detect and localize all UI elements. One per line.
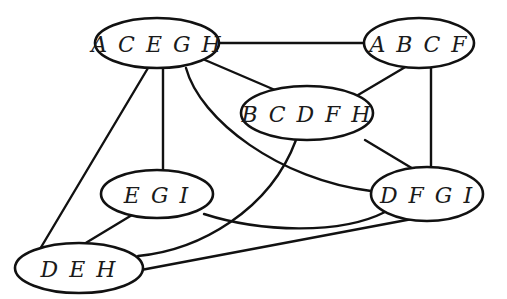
edge-abcf-bcdfh (358, 66, 407, 95)
node-abcf-label: A B C F (367, 32, 468, 57)
edges (40, 43, 431, 270)
edge-egi-dfgi (204, 212, 385, 228)
node-bcdfh: B C D F H (240, 86, 373, 140)
node-dfgi-label: D F G I (379, 183, 474, 208)
node-deh: D E H (15, 243, 143, 293)
edge-acegh-deh (40, 68, 148, 249)
graph-diagram: A C E G H A B C F B C D F H E G I D F G … (0, 0, 507, 299)
node-bcdfh-label: B C D F H (240, 102, 372, 127)
edge-bcdfh-dfgi (365, 140, 415, 170)
node-egi-label: E G I (123, 183, 190, 208)
node-acegh: A C E G H (89, 18, 223, 68)
edge-egi-deh (84, 215, 132, 244)
node-egi: E G I (101, 170, 213, 218)
edge-acegh-bcdfh (205, 60, 275, 90)
node-deh-label: D E H (40, 257, 118, 282)
node-abcf: A B C F (364, 18, 474, 68)
node-acegh-label: A C E G H (89, 32, 223, 57)
node-dfgi: D F G I (371, 167, 483, 221)
